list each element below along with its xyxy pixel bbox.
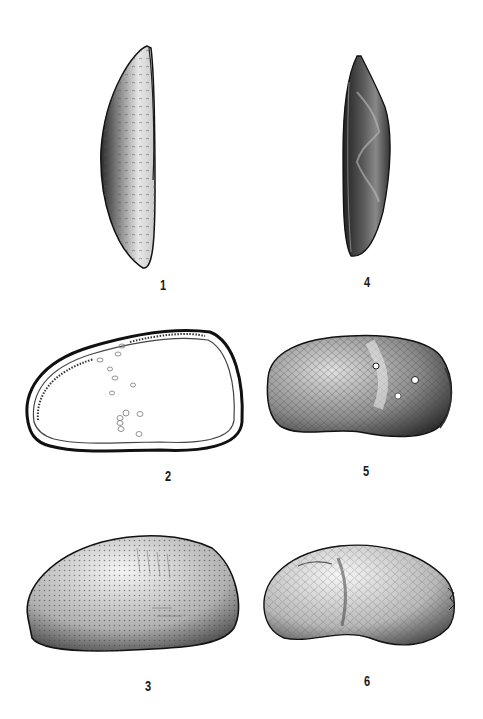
figure-5-specimen <box>260 328 460 446</box>
figure-6-specimen <box>260 538 460 656</box>
figure-3-specimen <box>22 528 247 658</box>
figure-5-label: 5 <box>356 464 376 479</box>
figure-3-label: 3 <box>138 679 158 694</box>
figure-1-specimen <box>95 40 165 275</box>
figure-6-label: 6 <box>357 674 377 689</box>
figure-4-specimen <box>335 52 397 262</box>
figure-2-label: 2 <box>158 469 178 484</box>
specimen-plate: 1 4 <box>0 0 483 719</box>
figure-2-specimen <box>20 322 248 460</box>
figure-1-label: 1 <box>153 278 173 293</box>
figure-4-label: 4 <box>357 275 377 290</box>
